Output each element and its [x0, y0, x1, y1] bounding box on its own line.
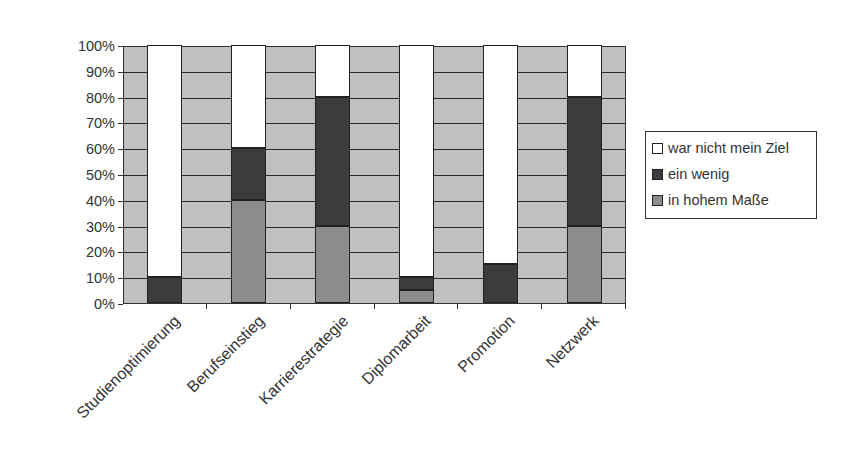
gridline — [124, 98, 625, 99]
gridline — [124, 252, 625, 253]
legend-swatch-icon — [652, 169, 663, 180]
x-tick-label: Berufseinstieg — [183, 312, 267, 396]
x-tick — [290, 304, 291, 309]
gridline — [124, 278, 625, 279]
legend-item: ein wenig — [652, 166, 729, 182]
x-tick — [625, 304, 626, 309]
gridline — [124, 175, 625, 176]
y-tick-label: 80% — [55, 90, 115, 106]
y-tick-label: 70% — [55, 115, 115, 131]
x-tick — [374, 304, 375, 309]
bar-segment — [567, 226, 602, 303]
x-tick-label: Netzwerk — [543, 312, 603, 372]
y-tick-label: 90% — [55, 64, 115, 80]
bar-segment — [147, 277, 182, 303]
gridline — [124, 149, 625, 150]
bar-studienoptimierung — [147, 45, 182, 303]
legend-label: war nicht mein Ziel — [668, 140, 789, 156]
y-tick — [118, 304, 123, 305]
y-tick-label: 40% — [55, 193, 115, 209]
legend-item: war nicht mein Ziel — [652, 140, 789, 156]
bar-segment — [567, 97, 602, 226]
gridline — [124, 227, 625, 228]
y-tick-label: 30% — [55, 219, 115, 235]
plot-area — [123, 46, 626, 304]
gridline — [124, 201, 625, 202]
x-tick-label: Karrierestrategie — [255, 312, 351, 408]
bar-segment — [315, 226, 350, 303]
y-tick-label: 60% — [55, 141, 115, 157]
x-tick — [206, 304, 207, 309]
bar-segment — [483, 264, 518, 303]
x-tick-label: Diplomarbeit — [359, 312, 435, 388]
x-tick-label: Studienoptimierung — [73, 312, 183, 422]
x-tick — [541, 304, 542, 309]
bar-segment — [399, 45, 434, 277]
legend-label: in hohem Maße — [668, 192, 769, 208]
x-tick — [457, 304, 458, 309]
bar-segment — [315, 97, 350, 226]
y-tick-label: 10% — [55, 270, 115, 286]
bar-segment — [567, 45, 602, 97]
bar-promotion — [483, 45, 518, 303]
bar-diplomarbeit — [399, 45, 434, 303]
bar-netzwerk — [567, 45, 602, 303]
legend-item: in hohem Maße — [652, 192, 769, 208]
bar-segment — [315, 45, 350, 97]
bar-segment — [147, 45, 182, 277]
legend-swatch-icon — [652, 143, 663, 154]
bar-segment — [399, 290, 434, 303]
gridline — [124, 123, 625, 124]
bar-segment — [231, 45, 266, 148]
legend-label: ein wenig — [668, 166, 729, 182]
bar-segment — [231, 200, 266, 303]
legend-swatch-icon — [652, 195, 663, 206]
bar-segment — [231, 148, 266, 200]
bar-segment — [483, 45, 518, 264]
legend: war nicht mein Zielein wenigin hohem Maß… — [645, 131, 817, 219]
x-tick-label: Promotion — [455, 312, 519, 376]
y-tick-label: 0% — [55, 296, 115, 312]
y-tick-label: 100% — [55, 38, 115, 54]
bar-berufseinstieg — [231, 45, 266, 303]
bar-segment — [399, 277, 434, 290]
gridline — [124, 72, 625, 73]
y-tick-label: 20% — [55, 244, 115, 260]
bar-karrierestrategie — [315, 45, 350, 303]
y-tick-label: 50% — [55, 167, 115, 183]
